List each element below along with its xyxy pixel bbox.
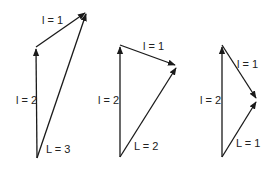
label-l1: l = 1 [237,58,258,70]
label-l2: l = 2 [200,94,221,106]
diagram-l1: l = 2 l = 1 L = 1 [200,45,260,157]
label-L: L = 1 [236,137,260,149]
label-l2: l = 2 [98,94,119,106]
vector-l1-arrow [222,45,256,98]
label-l2: l = 2 [16,94,37,106]
vector-addition-diagram: l = 2 l = 1 L = 3 l = 2 l = 1 L = 2 l = … [0,0,270,169]
label-L: L = 2 [134,140,158,152]
label-L: L = 3 [46,143,70,155]
diagram-l2: l = 2 l = 1 L = 2 [98,40,176,157]
vector-L-arrow [37,14,86,158]
label-l1: l = 1 [143,40,164,52]
diagram-l3: l = 2 l = 1 L = 3 [16,13,86,158]
label-l1: l = 1 [42,14,63,26]
